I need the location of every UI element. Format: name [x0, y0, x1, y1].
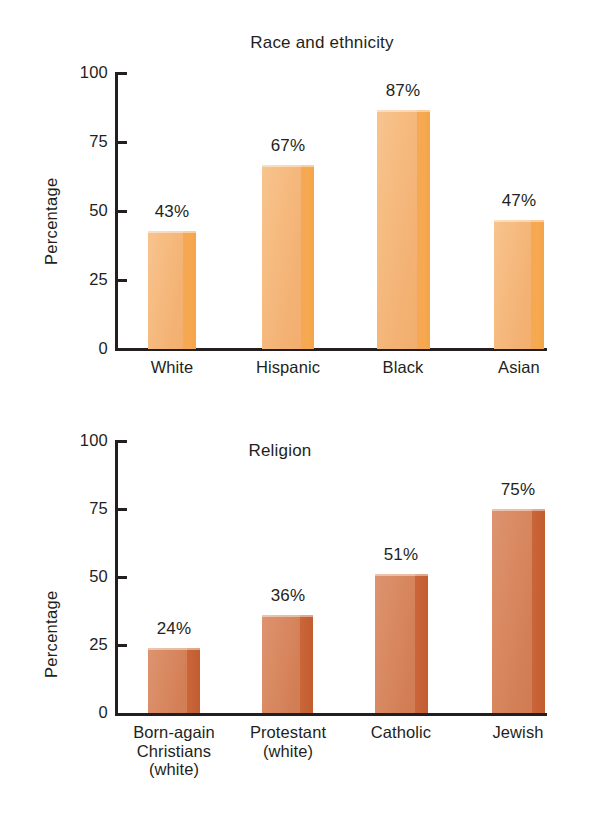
y-tick-label-25: 25: [62, 635, 108, 654]
bar-top-highlight: [148, 231, 196, 233]
bar-black: [377, 110, 430, 349]
bar-edge-highlight: [187, 648, 200, 713]
y-tick-label-25: 25: [62, 270, 108, 289]
category-label-born-again-christians: Born-again Christians (white): [114, 723, 234, 779]
bar-top-highlight: [262, 615, 313, 617]
category-label-hispanic: Hispanic: [233, 358, 343, 377]
bar-edge-highlight: [531, 220, 544, 349]
y-tick-25: [116, 279, 127, 282]
y-axis-label: Percentage: [42, 178, 61, 265]
y-axis-label: Percentage: [42, 591, 61, 678]
bar-edge-highlight: [532, 509, 545, 713]
bar-value-white: 43%: [132, 202, 212, 222]
bar-value-jewish: 75%: [478, 480, 558, 500]
bar-edge-highlight: [415, 574, 428, 713]
bar-top-highlight: [492, 509, 545, 511]
bar-top-highlight: [375, 574, 428, 576]
category-label-catholic: Catholic: [346, 723, 456, 742]
bar-value-hispanic: 67%: [248, 136, 328, 156]
bar-jewish: [492, 509, 545, 713]
category-label-jewish: Jewish: [468, 723, 568, 742]
bar-value-catholic: 51%: [361, 545, 441, 565]
y-tick-label-75: 75: [62, 499, 108, 518]
y-tick-label-50: 50: [62, 567, 108, 586]
chart-panel-race-ethnicity: Race and ethnicity Percentage 100 75 50 …: [0, 0, 612, 413]
bar-white: [148, 231, 196, 349]
chart-panel-religion: Religion Percentage 100 75 50 25 0 24% B…: [0, 413, 612, 826]
bar-value-black: 87%: [363, 81, 443, 101]
y-tick-50: [116, 576, 127, 579]
y-tick-100: [116, 440, 127, 443]
bar-protestant: [262, 615, 313, 713]
chart-title: Race and ethnicity: [16, 33, 612, 53]
y-tick-75: [116, 508, 127, 511]
y-tick-label-0: 0: [62, 339, 108, 358]
bar-top-highlight: [494, 220, 544, 222]
bar-hispanic: [262, 165, 314, 349]
bar-edge-highlight: [300, 615, 313, 713]
y-tick-75: [116, 141, 127, 144]
bar-top-highlight: [377, 110, 430, 112]
bar-value-protestant: 36%: [248, 586, 328, 606]
category-label-black: Black: [353, 358, 453, 377]
y-tick-label-0: 0: [62, 703, 108, 722]
y-tick-100: [116, 72, 127, 75]
bar-born-again-christians: [148, 648, 200, 713]
y-tick-50: [116, 210, 127, 213]
bar-value-born-again-christians: 24%: [134, 619, 214, 639]
bar-asian: [494, 220, 544, 349]
bar-edge-highlight: [183, 231, 196, 349]
category-label-white: White: [132, 358, 212, 377]
bar-top-highlight: [262, 165, 314, 167]
bar-edge-highlight: [301, 165, 314, 349]
category-label-asian: Asian: [469, 358, 569, 377]
y-tick-label-50: 50: [62, 201, 108, 220]
y-tick-label-100: 100: [62, 63, 108, 82]
category-label-protestant: Protestant (white): [232, 723, 344, 760]
bar-catholic: [375, 574, 428, 713]
y-tick-label-75: 75: [62, 132, 108, 151]
y-tick-25: [116, 644, 127, 647]
bar-value-asian: 47%: [479, 191, 559, 211]
x-axis-line: [115, 713, 547, 716]
bar-edge-highlight: [417, 110, 430, 349]
bar-top-highlight: [148, 648, 200, 650]
y-tick-label-100: 100: [62, 431, 108, 450]
